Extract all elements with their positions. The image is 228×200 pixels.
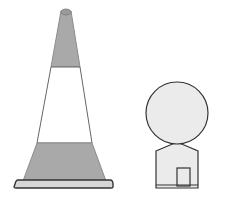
cone-white-band [37,67,92,143]
cone-bottom-band [23,143,106,181]
post-head [146,82,208,144]
post-door [177,168,190,186]
round-sign-post [146,82,208,188]
illustration-canvas [0,0,228,200]
cone-top-cap [61,9,71,15]
cone-base [14,180,113,188]
traffic-cone [14,9,113,188]
cone-top-band [51,11,80,67]
